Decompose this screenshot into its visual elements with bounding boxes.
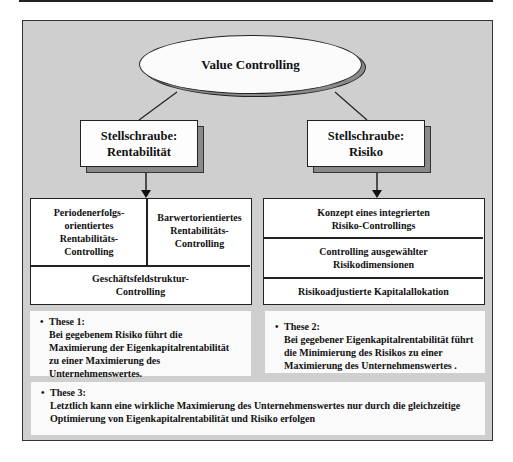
cell-integriertes-risiko-controlling: Konzept eines integrierten Risiko-Contro… xyxy=(264,199,483,238)
thesis-2-body: Bei gegebener Eigenkapitalrentabilität f… xyxy=(275,333,485,372)
lever-risiko: Stellschraube: Risiko xyxy=(307,120,425,167)
lever-rentabilitaet-line1: Stellschraube: xyxy=(101,128,177,144)
top-rule xyxy=(19,0,493,2)
bullet-icon: • xyxy=(41,386,50,399)
cell-periodenerfolgsorientiert: Periodenerfolgs- orientiertes Rentabilit… xyxy=(31,199,147,265)
cell-geschaeftsfeldstruktur: Geschäftsfeldstruktur- Controlling xyxy=(31,267,250,303)
bullet-icon: • xyxy=(275,320,284,333)
thesis-1: • These 1: Bei gegebenem Risiko führt di… xyxy=(30,311,251,376)
cell-risikodimensionen: Controlling ausgewählter Risikodimension… xyxy=(264,239,483,277)
cell-barwertorientiert: Barwertorientiertes Rentabilitäts- Contr… xyxy=(148,199,251,261)
thesis-3-body: Letztlich kann eine wirkliche Maximierun… xyxy=(41,399,485,425)
thesis-2: • These 2: Bei gegebener Eigenkapitalren… xyxy=(265,311,485,373)
risk-controlling-table: Konzept eines integrierten Risiko-Contro… xyxy=(263,198,485,305)
root-node-value-controlling: Value Controlling xyxy=(139,35,362,94)
rentability-controlling-table: Periodenerfolgs- orientiertes Rentabilit… xyxy=(30,198,252,305)
lever-risiko-line2: Risiko xyxy=(349,144,383,160)
thesis-1-title: These 1: xyxy=(49,315,85,328)
bullet-icon: • xyxy=(40,315,49,328)
cell-kapitalallokation: Risikoadjustierte Kapitalallokation xyxy=(264,279,483,304)
thesis-3: • These 3: Letztlich kann eine wirkliche… xyxy=(31,382,485,435)
lever-rentabilitaet-line2: Rentabilität xyxy=(107,144,171,160)
thesis-3-title: These 3: xyxy=(50,386,86,399)
thesis-2-title: These 2: xyxy=(284,320,320,333)
lever-risiko-line1: Stellschraube: xyxy=(328,128,404,144)
root-label: Value Controlling xyxy=(201,57,300,73)
lever-rentabilitaet: Stellschraube: Rentabilität xyxy=(80,120,198,167)
thesis-1-body: Bei gegebenem Risiko führt die Maximieru… xyxy=(40,328,251,380)
